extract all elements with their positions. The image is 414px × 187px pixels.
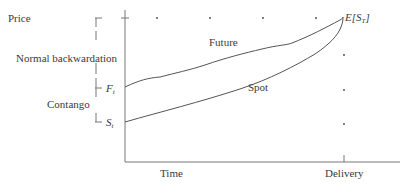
spot-curve <box>125 17 343 122</box>
contango-bracket <box>95 88 102 122</box>
diagram-canvas <box>0 0 414 187</box>
contango-label: Contango <box>47 98 90 110</box>
normal-backwardation-label: Normal backwardation <box>16 52 117 64</box>
future-curve <box>125 17 343 87</box>
x-axis-end-label: Delivery <box>325 167 363 179</box>
delivery-guide-dots <box>343 54 345 125</box>
futures-start-label: Ft <box>106 82 115 98</box>
future-curve-label: Future <box>209 36 238 48</box>
spot-start-label: St <box>106 116 113 132</box>
expected-spot-guide-dots <box>156 17 317 19</box>
expected-spot-label: E[ST] <box>345 11 370 27</box>
x-axis-start-label: Time <box>160 167 183 179</box>
spot-curve-label: Spot <box>248 81 268 93</box>
y-axis-label: Price <box>8 12 31 24</box>
